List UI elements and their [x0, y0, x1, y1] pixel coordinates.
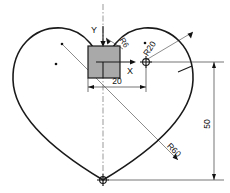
r60-center-dot [61, 43, 64, 46]
y-axis-label: Y [91, 25, 97, 35]
dim50-arrow-bottom [212, 174, 216, 180]
lobe-tick-mark [178, 66, 192, 72]
dim50-label: 50 [202, 119, 212, 129]
r60-label: R60 [165, 141, 183, 159]
dim20-label: 20 [112, 76, 122, 86]
r20-arrowhead [188, 32, 194, 38]
engineering-drawing-canvas: Y X R6 R20 R60 20 50 [0, 0, 230, 193]
left-center-dot [55, 63, 58, 66]
x-axis-arrowhead [130, 59, 136, 64]
dim50-arrow-top [212, 62, 216, 68]
r20-label: R20 [141, 39, 158, 58]
r6-arrowhead [106, 38, 111, 45]
dim20-arrow-left [88, 85, 94, 89]
x-axis-label: X [127, 66, 133, 76]
dim20-arrow-right [140, 85, 146, 89]
